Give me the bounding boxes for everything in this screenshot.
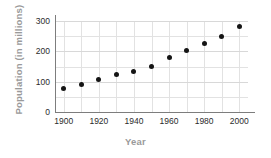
x-axis-label: Year: [0, 136, 271, 147]
gridline-horizontal: [55, 82, 248, 83]
y-axis-line: [55, 15, 56, 113]
data-point: [219, 34, 224, 39]
x-tick-label: 1960: [160, 116, 179, 126]
x-tick-label: 1940: [124, 116, 143, 126]
x-tick-label: 1980: [195, 116, 214, 126]
y-axis-label: Population (in millions): [13, 0, 24, 125]
gridline-horizontal: [55, 51, 248, 52]
data-point: [184, 48, 189, 53]
population-scatter-chart: Population (in millions) 0100200300 1900…: [0, 0, 271, 158]
data-point: [131, 69, 136, 74]
data-point: [202, 41, 207, 46]
data-point: [149, 64, 154, 69]
x-tick-label: 1900: [54, 116, 73, 126]
y-tick-label: 100: [36, 77, 50, 87]
y-tick-label: 300: [36, 16, 50, 26]
data-point: [167, 55, 172, 60]
plot-area: 0100200300 190019201940196019802000: [55, 21, 248, 112]
y-tick-label: 200: [36, 46, 50, 56]
y-tick-label: 0: [45, 107, 50, 117]
x-axis-line: [55, 112, 255, 113]
data-point: [61, 86, 66, 91]
data-point: [237, 24, 242, 29]
x-tick-label: 1920: [89, 116, 108, 126]
gridline-horizontal: [55, 97, 248, 98]
gridline-horizontal: [55, 21, 248, 22]
x-tick-label: 2000: [230, 116, 249, 126]
data-point: [79, 82, 84, 87]
data-point: [114, 72, 119, 77]
